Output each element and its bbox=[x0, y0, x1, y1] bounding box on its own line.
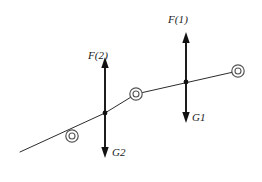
weight-1-label: G1 bbox=[192, 112, 206, 123]
node-left bbox=[66, 130, 78, 142]
force-1-label: F(1) bbox=[168, 14, 188, 25]
force-arrow-1-joint-dot bbox=[184, 80, 189, 85]
node-right bbox=[232, 65, 244, 77]
force-arrow-1-down-head bbox=[182, 112, 189, 123]
node-middle bbox=[130, 88, 142, 100]
force-2-label: F(2) bbox=[88, 50, 108, 61]
force-arrow-1-up-head bbox=[182, 32, 189, 43]
force-arrow-2-group bbox=[101, 57, 108, 158]
force-arrow-1-group bbox=[182, 32, 189, 123]
node-left-inner-circle bbox=[69, 133, 75, 139]
weight-2-label: G2 bbox=[112, 147, 126, 158]
force-arrow-2-down-head bbox=[101, 147, 108, 158]
force-arrow-2-joint-dot bbox=[103, 111, 108, 116]
node-right-inner-circle bbox=[235, 68, 241, 74]
node-middle-inner-circle bbox=[133, 91, 139, 97]
force-diagram-figure: F(1) F(2) G1 G2 bbox=[0, 0, 262, 182]
diagram-canvas bbox=[0, 0, 262, 182]
